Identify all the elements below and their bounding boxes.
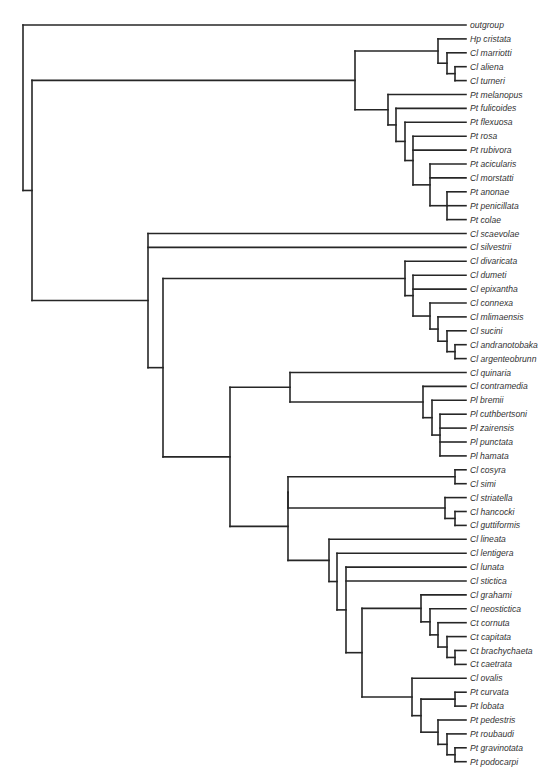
phylogenetic-tree: [0, 0, 551, 778]
taxon-label: Pt melanopus: [470, 90, 523, 100]
taxon-label: Ct capitata: [470, 632, 511, 642]
taxon-label: Pt rosa: [470, 131, 497, 141]
taxon-label: Cl mlimaensis: [470, 312, 523, 322]
taxon-label: Ct cornuta: [470, 618, 510, 628]
taxon-label: Cl quinaria: [470, 368, 511, 378]
taxon-label: Cl lunata: [470, 562, 504, 572]
taxon-label: Pt colae: [470, 215, 501, 225]
taxon-label: Pt podocarpi: [470, 757, 518, 767]
taxon-label: Pt rubivora: [470, 145, 512, 155]
taxon-label: Pt fulicoides: [470, 103, 516, 113]
taxon-label: outgroup: [470, 20, 504, 30]
taxon-label: Pl punctata: [470, 437, 513, 447]
taxon-label: Cl marriotti: [470, 48, 512, 58]
taxon-label: Pt anonae: [470, 187, 509, 197]
taxon-label: Cl cosyra: [470, 465, 506, 475]
taxon-label: Pt acicularis: [470, 159, 516, 169]
taxon-label: Cl divaricata: [470, 256, 517, 266]
taxon-label: Hp cristata: [470, 34, 511, 44]
taxon-label: Cl dumeti: [470, 270, 506, 280]
taxon-label: Pl cuthbertsoni: [470, 409, 527, 419]
taxon-label: Pt penicillata: [470, 201, 519, 211]
taxon-label: Ct brachychaeta: [470, 646, 533, 656]
taxon-label: Cl guttiformis: [470, 520, 520, 530]
taxon-label: Cl aliena: [470, 62, 503, 72]
taxon-label: Cl ovalis: [470, 673, 502, 683]
taxon-label: Pl zairensis: [470, 423, 514, 433]
taxon-label: Pt flexuosa: [470, 117, 513, 127]
taxon-label: Cl hancocki: [470, 507, 514, 517]
taxon-label: Cl connexa: [470, 298, 513, 308]
taxon-label: Pl bremii: [470, 395, 503, 405]
taxon-label: Cl epixantha: [470, 284, 518, 294]
taxon-label: Pt curvata: [470, 687, 509, 697]
taxon-label: Pt pedestris: [470, 715, 515, 725]
taxon-label: Cl lineata: [470, 534, 506, 544]
taxon-label: Cl scaevolae: [470, 229, 519, 239]
taxon-label: Cl lentigera: [470, 548, 513, 558]
taxon-label: Cl sucini: [470, 326, 502, 336]
taxon-label: Pt gravinotata: [470, 743, 523, 753]
taxon-label: Cl neostictica: [470, 604, 521, 614]
taxon-label: Cl andranotobaka: [470, 340, 538, 350]
taxon-label: Cl turneri: [470, 76, 505, 86]
taxon-label: Cl simi: [470, 479, 496, 489]
taxon-label: Cl morstatti: [470, 173, 513, 183]
taxon-label: Cl contramedia: [470, 381, 528, 391]
taxon-label: Cl stictica: [470, 576, 507, 586]
taxon-label: Pt lobata: [470, 701, 504, 711]
taxon-label: Ct caetrata: [470, 659, 512, 669]
taxon-label: Pt roubaudi: [470, 729, 514, 739]
taxon-label: Cl silvestrii: [470, 242, 511, 252]
taxon-label: Pl hamata: [470, 451, 509, 461]
taxon-label: Cl argenteobrunn: [470, 354, 536, 364]
taxon-label: Cl striatella: [470, 493, 513, 503]
taxon-label: Cl grahami: [470, 590, 512, 600]
